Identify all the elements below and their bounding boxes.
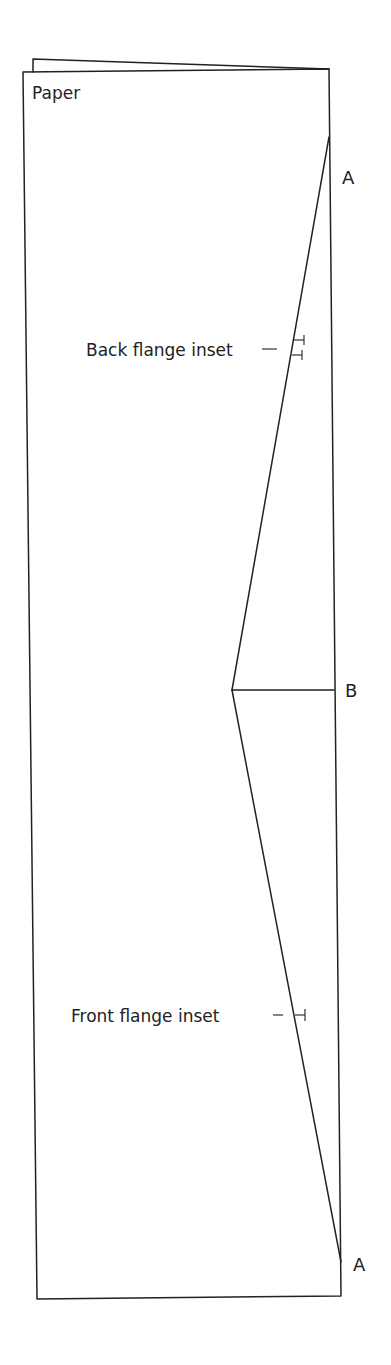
front-flange-inset-label: Front flange inset: [71, 1006, 220, 1026]
paper-label: Paper: [32, 83, 80, 103]
point-a-bottom-label: A: [353, 1254, 366, 1275]
point-b-label: B: [345, 680, 357, 701]
fold-line-upper: [232, 137, 329, 690]
front-flange-inset-marker: [273, 1009, 305, 1021]
paper-fold-diagram: Paper Back flange inset Front flange ins…: [0, 0, 391, 1365]
fold-line-lower: [232, 690, 341, 1262]
paper-sheet: [23, 69, 341, 1299]
point-a-top-label: A: [342, 167, 355, 188]
back-flange-inset-label: Back flange inset: [86, 340, 233, 360]
back-flange-inset-marker: [262, 335, 304, 360]
